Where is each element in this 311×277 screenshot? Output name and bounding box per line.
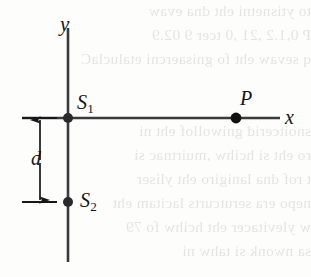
point-label-s2-letter: S (80, 189, 90, 211)
point-label-p: P (240, 88, 252, 108)
point-marker-s2 (63, 197, 73, 207)
y-axis-label: y (60, 14, 69, 35)
separation-distance-label: d (31, 148, 41, 168)
point-label-p-letter: P (240, 87, 252, 109)
point-label-s1-subscript: 1 (87, 101, 94, 116)
point-marker-s1 (63, 113, 73, 123)
point-label-s1-letter: S (77, 91, 87, 113)
point-marker-p (231, 113, 242, 124)
physics-figure-two-source-interference: to ytisnetni eht dna evawP 0,1.2 ,21 ,0 … (0, 0, 311, 277)
point-label-s2: S2 (80, 190, 97, 213)
x-axis-label: x (285, 107, 294, 127)
point-label-s1: S1 (77, 92, 94, 115)
diagram-canvas (0, 0, 311, 277)
point-label-s2-subscript: 2 (90, 199, 97, 214)
